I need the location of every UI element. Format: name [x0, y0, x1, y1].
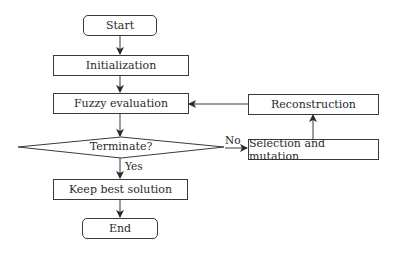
node-initialization: Initialization: [53, 55, 189, 76]
connectors: [0, 0, 394, 253]
edge-label-yes: Yes: [125, 160, 143, 172]
node-start: Start: [83, 15, 157, 36]
node-fuzzy-evaluation: Fuzzy evaluation: [53, 93, 189, 114]
node-reconstruction: Reconstruction: [248, 94, 379, 115]
edge-label-no: No: [225, 134, 241, 146]
node-terminate: Terminate?: [61, 140, 181, 153]
node-keep-best-solution: Keep best solution: [53, 179, 188, 200]
node-end: End: [82, 218, 158, 239]
node-selection-and-mutation: Selection and mutation: [248, 139, 379, 160]
